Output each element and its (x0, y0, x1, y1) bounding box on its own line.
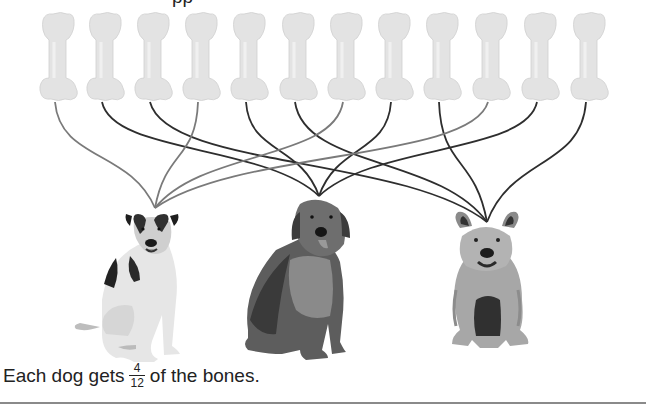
bone-to-dog-line (55, 102, 155, 208)
bone-icon (571, 13, 608, 101)
bone-to-dog-line (155, 102, 488, 208)
bone-icon (280, 13, 317, 101)
bottom-rule (0, 402, 646, 404)
bone-icon (328, 13, 365, 101)
bone-icon (87, 13, 124, 101)
fraction: 4 12 (129, 362, 144, 389)
caption: Each dog gets 4 12 of the bones. (3, 362, 260, 390)
bone-icon (424, 13, 461, 101)
bone-to-dog-line (439, 102, 487, 222)
bone-sharing-diagram: pp (0, 0, 646, 406)
bone-to-dog-line (102, 102, 319, 196)
dog-golden-retriever (245, 200, 350, 360)
caption-after: of the bones. (150, 362, 260, 390)
dog-jack-russell (75, 214, 180, 362)
bones-row (40, 13, 608, 101)
bone-icon (376, 13, 413, 101)
bone-icon (40, 13, 77, 101)
bone-icon (183, 13, 220, 101)
caption-before: Each dog gets (3, 362, 124, 390)
diagram-canvas (0, 0, 646, 406)
bone-icon (135, 13, 172, 101)
bone-to-dog-line (487, 102, 586, 222)
fraction-denominator: 12 (129, 375, 144, 389)
bone-icon (473, 13, 510, 101)
bone-icon (522, 13, 559, 101)
dog-shaggy-terrier (452, 212, 528, 348)
cropped-heading-fragment: pp (172, 0, 193, 8)
bone-icon (231, 13, 268, 101)
bone-to-dog-line (319, 102, 537, 196)
bone-to-dog-line (155, 102, 198, 208)
fraction-numerator: 4 (133, 362, 142, 375)
